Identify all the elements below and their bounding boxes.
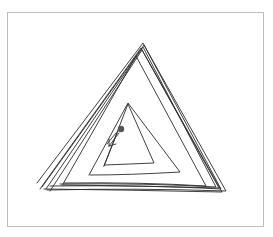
outer-triangle-3 — [46, 47, 216, 189]
outer-triangle-5 — [40, 48, 222, 192]
outer-triangle-4 — [50, 50, 219, 191]
inner-triangle-2 — [104, 104, 154, 166]
spiral-triangle-drawing — [0, 0, 273, 237]
inner-connector — [104, 131, 118, 166]
